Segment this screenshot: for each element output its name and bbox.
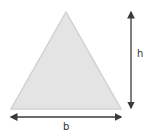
height-label: h: [137, 49, 143, 59]
triangle-diagram: [0, 0, 151, 137]
triangle-shape: [11, 12, 121, 109]
base-label: b: [63, 122, 69, 132]
